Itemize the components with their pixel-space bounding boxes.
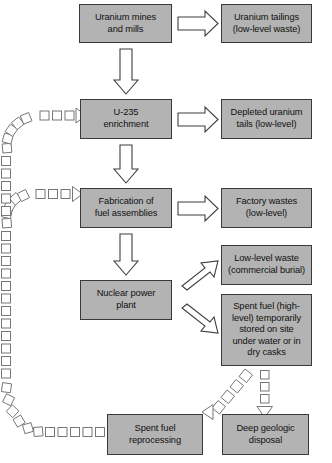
node-label: Uranium tailings (low-level waste) xyxy=(225,12,308,35)
node-low-level-waste-commercial-burial[interactable]: Low-level waste (commercial burial) xyxy=(221,245,312,285)
node-uranium-tailings[interactable]: Uranium tailings (low-level waste) xyxy=(221,4,312,43)
node-label: U-235 enrichment xyxy=(84,107,168,130)
arrow-enrichment-to-depleted-tails xyxy=(178,107,218,132)
arrow-enrichment-to-fabrication xyxy=(114,145,138,183)
arrow-fabrication-to-power-plant xyxy=(114,234,138,275)
flowchart-diagram: Uranium mines and mills Uranium tailings… xyxy=(0,0,332,463)
arrow-layer xyxy=(0,0,332,463)
node-label: Fabrication of fuel assemblies xyxy=(84,196,168,219)
node-nuclear-power-plant[interactable]: Nuclear power plant xyxy=(80,280,172,320)
arrow-fabrication-to-factory-wastes xyxy=(178,196,218,221)
arrow-power-plant-to-spent-fuel xyxy=(182,304,218,333)
node-factory-wastes[interactable]: Factory wastes (low-level) xyxy=(221,188,312,228)
arrow-spent-fuel-to-reprocessing xyxy=(202,369,253,420)
node-uranium-mines-and-mills[interactable]: Uranium mines and mills xyxy=(79,4,172,43)
node-label: Uranium mines and mills xyxy=(83,12,168,35)
node-spent-fuel-temporary-storage[interactable]: Spent fuel (high- level) temporarily sto… xyxy=(221,294,312,366)
node-label: Depleted uranium tails (low-level) xyxy=(225,107,308,130)
arrow-reprocessing-loop xyxy=(1,108,104,437)
node-depleted-uranium-tails[interactable]: Depleted uranium tails (low-level) xyxy=(221,99,312,139)
node-label: Factory wastes (low-level) xyxy=(225,196,308,219)
arrow-mines-to-enrichment xyxy=(114,49,138,94)
node-fabrication-of-fuel-assemblies[interactable]: Fabrication of fuel assemblies xyxy=(80,188,172,228)
node-u-235-enrichment[interactable]: U-235 enrichment xyxy=(80,99,172,139)
node-deep-geologic-disposal[interactable]: Deep geologic disposal xyxy=(222,414,309,455)
node-label: Deep geologic disposal xyxy=(226,423,305,446)
node-label: Nuclear power plant xyxy=(84,288,168,311)
arrow-power-plant-to-low-level-waste xyxy=(182,261,218,290)
node-label: Spent fuel (high- level) temporarily sto… xyxy=(225,301,308,359)
node-label: Low-level waste (commercial burial) xyxy=(225,253,308,276)
node-label: Spent fuel reprocessing xyxy=(111,423,199,446)
arrow-mines-to-tailings xyxy=(178,11,218,36)
node-spent-fuel-reprocessing[interactable]: Spent fuel reprocessing xyxy=(107,414,203,455)
arrow-spent-fuel-to-deep-disposal xyxy=(257,371,273,418)
